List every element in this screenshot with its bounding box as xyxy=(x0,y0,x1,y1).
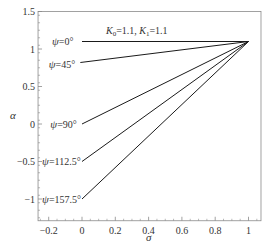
series-line xyxy=(82,42,249,200)
series-labels: ψ=0°ψ=45°ψ=90°ψ=112.5°ψ=157.5° xyxy=(42,35,81,205)
x-axis-label: σ xyxy=(146,231,152,243)
y-tick-label: −0.5 xyxy=(17,156,35,167)
series-label: ψ=112.5° xyxy=(42,155,81,167)
parameter-annotation: K0=1.1, K1=1.1 xyxy=(105,25,168,38)
series-lines xyxy=(80,42,248,200)
y-tick-label: 0 xyxy=(30,119,35,130)
series-label: ψ=0° xyxy=(52,35,73,47)
y-tick-label: 1.5 xyxy=(23,6,36,17)
y-axis-label: α xyxy=(10,109,16,121)
x-tick-label: 0.6 xyxy=(176,225,189,236)
y-tick-label: 0.5 xyxy=(23,81,36,92)
x-tick-label: 1 xyxy=(246,225,251,236)
series-label: ψ=45° xyxy=(49,58,75,70)
series-label: ψ=90° xyxy=(50,118,76,130)
x-tick-label: −0.2 xyxy=(40,225,58,236)
series-label: ψ=157.5° xyxy=(42,193,81,205)
x-tick-label: 0.2 xyxy=(109,225,122,236)
x-tick-label: 0.8 xyxy=(209,225,222,236)
x-tick-label: 0 xyxy=(80,225,85,236)
chart: −0.200.20.40.60.81−1−0.500.511.5 ψ=0°ψ=4… xyxy=(0,0,270,248)
series-line xyxy=(82,42,249,125)
y-tick-label: 1 xyxy=(30,44,35,55)
y-tick-label: −1 xyxy=(24,194,35,205)
